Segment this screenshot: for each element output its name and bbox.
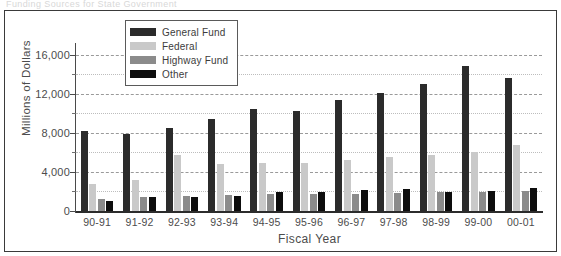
legend-item: Federal xyxy=(130,39,232,53)
bar xyxy=(445,192,452,211)
x-tick-label: 99-00 xyxy=(457,216,499,228)
y-tick-label: 8,000 xyxy=(10,127,70,139)
bar-group xyxy=(250,45,283,211)
y-tick-minor xyxy=(72,152,76,153)
legend-item: Highway Fund xyxy=(130,53,232,67)
bar xyxy=(140,197,147,211)
legend-label: General Fund xyxy=(162,27,226,38)
legend-swatch xyxy=(130,70,156,78)
bar xyxy=(174,155,181,211)
chart-screenshot: Funding Sources for State Government 04,… xyxy=(0,0,561,256)
bar-group xyxy=(505,45,538,211)
bar xyxy=(377,93,384,211)
cropped-header-text: Funding Sources for State Government xyxy=(0,0,561,9)
bar xyxy=(420,84,427,211)
x-tick-label: 00-01 xyxy=(500,216,542,228)
bar xyxy=(132,180,139,211)
bar xyxy=(149,197,156,211)
legend-label: Highway Fund xyxy=(162,55,228,66)
y-tick-label: 4,000 xyxy=(10,166,70,178)
bar xyxy=(403,189,410,211)
bar xyxy=(344,160,351,211)
x-tick-label: 98-99 xyxy=(415,216,457,228)
bar-group xyxy=(293,45,326,211)
x-axis-title: Fiscal Year xyxy=(76,232,543,246)
bar xyxy=(428,155,435,211)
y-axis-tick-labels: 04,0008,00012,00016,000 xyxy=(6,0,70,256)
bar xyxy=(318,192,325,211)
legend-swatch xyxy=(130,42,156,50)
bar xyxy=(106,201,113,211)
bar xyxy=(217,164,224,211)
bar xyxy=(81,131,88,211)
bar xyxy=(234,196,241,211)
bar xyxy=(208,119,215,211)
bar xyxy=(276,192,283,211)
y-tick-label: 0 xyxy=(10,205,70,217)
x-tick-label: 92-93 xyxy=(161,216,203,228)
y-tick-major xyxy=(70,211,76,212)
y-tick-major xyxy=(70,172,76,173)
x-axis-line xyxy=(76,211,543,213)
bar xyxy=(479,192,486,211)
y-tick-major xyxy=(70,55,76,56)
bar xyxy=(293,111,300,211)
x-tick-label: 94-95 xyxy=(245,216,287,228)
bar xyxy=(522,191,529,211)
bar xyxy=(267,194,274,211)
bar xyxy=(166,128,173,211)
bar xyxy=(335,100,342,211)
bar xyxy=(513,145,520,211)
y-tick-minor xyxy=(72,74,76,75)
legend-label: Federal xyxy=(162,41,197,52)
y-tick-label: 12,000 xyxy=(10,88,70,100)
bar xyxy=(183,196,190,211)
y-tick-major xyxy=(70,94,76,95)
legend-item: Other xyxy=(130,67,232,81)
y-tick-minor xyxy=(72,113,76,114)
bar xyxy=(462,66,469,211)
bar xyxy=(89,184,96,211)
legend-swatch xyxy=(130,28,156,36)
bar-group xyxy=(81,45,114,211)
bar xyxy=(488,191,495,211)
x-tick-label: 91-92 xyxy=(118,216,160,228)
x-tick-label: 96-97 xyxy=(330,216,372,228)
bar xyxy=(123,134,130,211)
chart-legend: General FundFederalHighway FundOther xyxy=(125,20,238,86)
bar xyxy=(352,194,359,211)
bar-group xyxy=(335,45,368,211)
bar-group xyxy=(420,45,453,211)
bar xyxy=(530,188,537,211)
bar xyxy=(259,163,266,211)
bar xyxy=(191,197,198,211)
bar xyxy=(250,109,257,211)
bar xyxy=(471,152,478,211)
bar xyxy=(505,78,512,211)
bar-group xyxy=(462,45,495,211)
bar xyxy=(98,199,105,211)
x-tick-label: 95-96 xyxy=(288,216,330,228)
bar xyxy=(361,190,368,211)
bar xyxy=(310,194,317,211)
x-tick-label: 97-98 xyxy=(373,216,415,228)
bar xyxy=(225,195,232,211)
x-tick-label: 93-94 xyxy=(203,216,245,228)
legend-swatch xyxy=(130,56,156,64)
bar xyxy=(301,163,308,211)
bar xyxy=(437,192,444,211)
legend-item: General Fund xyxy=(130,25,232,39)
legend-label: Other xyxy=(162,69,188,80)
y-tick-major xyxy=(70,133,76,134)
y-tick-label: 16,000 xyxy=(10,49,70,61)
bar xyxy=(394,193,401,211)
y-tick-minor xyxy=(72,191,76,192)
y-axis-title: Millions of Dollars xyxy=(20,18,32,158)
bar xyxy=(386,157,393,211)
x-tick-label: 90-91 xyxy=(76,216,118,228)
bar-group xyxy=(377,45,410,211)
